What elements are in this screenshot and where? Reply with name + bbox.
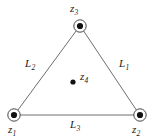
edge-label-L1: L1 xyxy=(119,58,129,69)
edge-label-L2: L2 xyxy=(25,58,35,69)
edge-L2-line xyxy=(15,27,79,114)
vertex-label-z3: z3 xyxy=(70,3,78,14)
vertex-marker-z2 xyxy=(134,109,146,121)
vertex-marker-z3 xyxy=(74,20,86,32)
interior-point-label-z4: z4 xyxy=(80,71,88,82)
vertex-marker-z1 xyxy=(8,109,20,121)
triangle-diagram: z3 z1 z2 z4 L1 L2 L3 xyxy=(0,0,158,140)
interior-point-marker-z4 xyxy=(70,79,75,84)
vertex-label-z1: z1 xyxy=(8,124,16,135)
edge-L1-line xyxy=(81,27,139,114)
vertex-label-z2: z2 xyxy=(132,124,140,135)
edge-label-L3: L3 xyxy=(70,119,80,130)
